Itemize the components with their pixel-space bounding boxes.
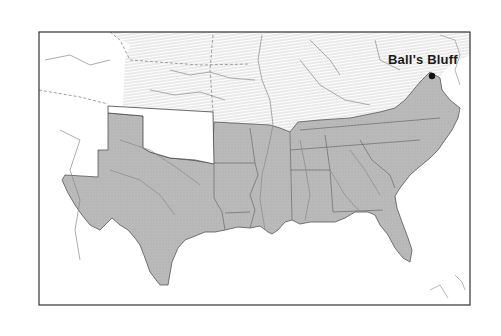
location-dot-icon <box>429 73 435 79</box>
map <box>0 0 501 336</box>
balls-bluff-label: Ball's Bluff <box>388 52 458 67</box>
